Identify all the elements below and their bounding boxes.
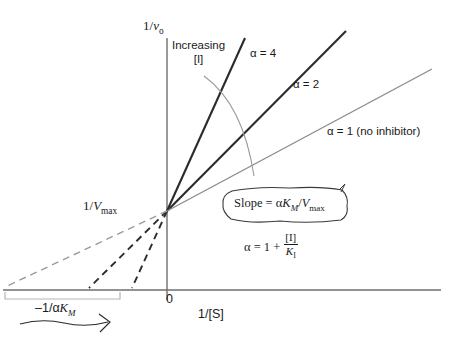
fraction-denominator: KI xyxy=(284,244,298,260)
origin-label: 0 xyxy=(166,292,173,306)
alpha-equation-fraction: [I]KI xyxy=(283,232,298,260)
line-label-alpha-2: α = 2 xyxy=(293,78,319,91)
dashed-extension-alpha-1 xyxy=(5,211,167,287)
slope-callout-text: Slope = αKM/Vmax xyxy=(234,196,325,213)
line-label-alpha-4: α = 4 xyxy=(250,47,276,60)
x-axis-label: 1/[S] xyxy=(198,307,224,321)
dashed-extension-alpha-2 xyxy=(89,211,167,288)
line-label-alpha-1: α = 1 (no inhibitor) xyxy=(327,125,420,138)
x-intercept-label: –1/αKM xyxy=(35,301,75,318)
slope-callout-tail xyxy=(339,184,345,192)
y-intercept-label: 1/Vmax xyxy=(83,199,117,216)
fraction-numerator: [I] xyxy=(283,232,298,244)
x-intercept-bracket xyxy=(5,292,120,299)
direction-arrow xyxy=(20,321,108,326)
increasing-inhibitor-label: Increasing[I] xyxy=(172,38,225,67)
y-axis-label: 1/vo xyxy=(143,19,164,36)
dashed-extension-alpha-4 xyxy=(132,211,167,288)
increasing-inhibitor-arc xyxy=(204,76,254,176)
alpha-equation: α = 1 +[I]KI xyxy=(244,233,298,261)
